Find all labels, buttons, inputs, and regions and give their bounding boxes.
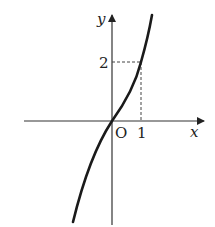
x-tick-1: 1 bbox=[137, 124, 147, 142]
y-axis-label: y bbox=[96, 10, 106, 28]
origin-label: O bbox=[115, 124, 127, 142]
y-tick-2: 2 bbox=[99, 54, 109, 72]
chart: y x O 1 2 bbox=[0, 0, 215, 227]
x-axis-label: x bbox=[190, 123, 199, 141]
